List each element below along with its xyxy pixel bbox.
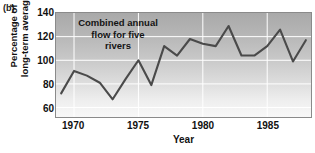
y-tick-label-60: 60 — [8, 103, 54, 114]
x-tick-label-1985: 1985 — [257, 120, 279, 131]
y-tick-label-140: 140 — [8, 7, 54, 18]
x-tick-label-1980: 1980 — [192, 120, 214, 131]
y-tick-label-100: 100 — [8, 55, 54, 66]
gridlines — [56, 13, 311, 117]
plot-area — [55, 12, 312, 118]
figure-panel-b: (b) Percentage of long-term average 6080… — [0, 0, 315, 153]
x-axis-title: Year — [55, 134, 312, 145]
y-tick-label-80: 80 — [8, 79, 54, 90]
x-tick-label-1975: 1975 — [127, 120, 149, 131]
y-axis-tick-labels: 6080100120140 — [2, 0, 54, 153]
x-tick-label-1970: 1970 — [62, 120, 84, 131]
y-tick-label-120: 120 — [8, 31, 54, 42]
chart-svg — [56, 13, 311, 117]
